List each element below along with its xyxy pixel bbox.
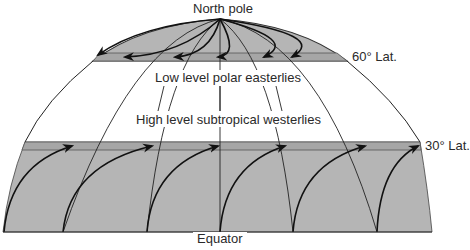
globe-outline-left — [25, 61, 93, 142]
lat30-band — [22, 142, 421, 150]
equator-label: Equator — [193, 232, 247, 246]
subtropical-westerlies-label: High level subtropical westerlies — [136, 113, 321, 127]
lat30-label: 30° Lat. — [425, 139, 470, 153]
globe-outline-right — [347, 61, 420, 142]
north-pole-label: North pole — [193, 2, 253, 16]
polar-easterlies-label: Low level polar easterlies — [155, 71, 301, 85]
lat60-label: 60° Lat. — [352, 50, 397, 64]
